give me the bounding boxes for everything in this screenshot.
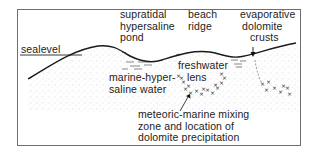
label-pond-line-3: pond	[120, 32, 175, 44]
label-freshwater-line-2: lens	[187, 72, 228, 84]
label-crusts-line-3: crusts	[250, 32, 295, 44]
label-marine-line-1: marine-hyper-	[109, 72, 176, 84]
label-evaporative-crusts: evaporative dolomite crusts	[240, 9, 295, 44]
label-supratidal-pond: supratidal hypersaline pond	[120, 9, 175, 44]
label-crusts-line-1: evaporative	[240, 9, 295, 21]
svg-text:×: ×	[264, 86, 269, 93]
label-freshwater-line-1: freshwater	[178, 60, 228, 72]
label-mixing-line-3: dolomite precipitation	[138, 132, 249, 144]
pond-markers	[122, 52, 180, 55]
diagram: × × × × × × × × × × × × × × × × × × × × …	[0, 0, 315, 159]
svg-text:×: ×	[201, 85, 206, 92]
label-beach-line-2: ridge	[188, 21, 217, 33]
label-marine-hypersaline-water: marine-hyper- saline water	[109, 72, 176, 95]
label-beach-line-1: beach	[188, 9, 217, 21]
label-marine-line-2: saline water	[109, 84, 176, 96]
label-sealevel: sealevel	[21, 44, 60, 56]
label-mixing-zone: meteoric-marine mixing zone and location…	[138, 109, 249, 144]
label-pond-line-1: supratidal	[120, 9, 175, 21]
svg-text:×: ×	[186, 82, 191, 89]
svg-text:×: ×	[266, 78, 271, 85]
label-mixing-line-1: meteoric-marine mixing	[138, 109, 249, 121]
svg-text:×: ×	[287, 90, 292, 97]
label-beach-ridge: beach ridge	[188, 9, 217, 32]
svg-text:×: ×	[272, 84, 277, 91]
svg-text:×: ×	[278, 88, 283, 95]
svg-text:×: ×	[281, 82, 286, 89]
label-freshwater-lens: freshwater lens	[178, 60, 228, 83]
label-sealevel-text: sealevel	[21, 44, 60, 56]
